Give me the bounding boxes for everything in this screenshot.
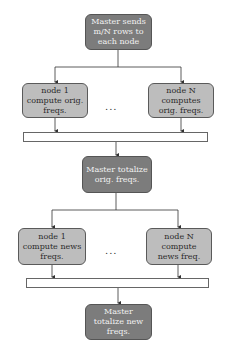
node-n-news-freqs-label: node N compute news freq. — [150, 232, 208, 262]
node-1-orig-freqs-box: node 1 compute orig. freqs. — [22, 83, 88, 118]
ellipsis-row-1: ... — [105, 101, 118, 112]
sync-bar-1 — [23, 132, 208, 142]
master-totalize-new-box: Master totalize new freqs. — [85, 304, 152, 340]
master-sends-rows-box: Master sends m/N rows to each node — [85, 14, 152, 50]
ellipsis-row-2: ... — [105, 245, 118, 256]
node-1-news-freqs-box: node 1 compute news freqs. — [18, 228, 86, 265]
master-totalize-orig-box: Master totalize orig. freqs. — [82, 156, 152, 193]
master-totalize-orig-label: Master totalize orig. freqs. — [86, 165, 148, 185]
master-totalize-new-label: Master totalize new freqs. — [89, 307, 148, 337]
master-sends-rows-label: Master sends m/N rows to each node — [89, 17, 148, 47]
node-1-news-freqs-label: node 1 compute news freqs. — [22, 232, 82, 262]
node-n-orig-freqs-box: node N computes orig. freqs. — [148, 83, 214, 118]
node-n-orig-freqs-label: node N computes orig. freqs. — [152, 86, 210, 116]
node-n-news-freqs-box: node N compute news freq. — [146, 228, 212, 265]
node-1-orig-freqs-label: node 1 compute orig. freqs. — [26, 86, 84, 116]
sync-bar-2 — [26, 278, 209, 288]
